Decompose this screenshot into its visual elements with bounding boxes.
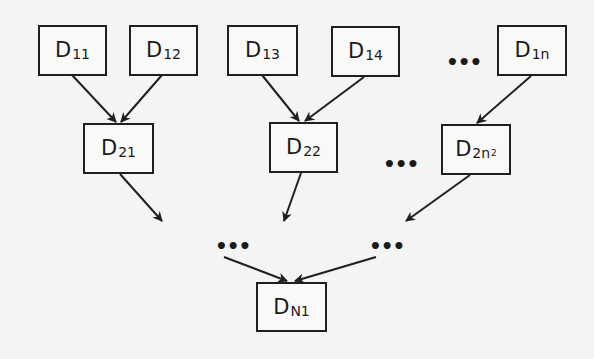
node-dn1: DN1 [256,282,327,332]
edge-d14-d22 [305,77,364,121]
node-label: D [146,40,162,61]
edge-d21-ellipsis [120,174,162,221]
edge-ellipsis-left-dn1 [224,257,287,281]
edge-d2n2-ellipsis [406,175,470,221]
node-label: D [245,40,261,61]
node-label: D [101,138,117,159]
node-label: D [455,139,471,160]
node-subscript: 12 [163,47,181,61]
node-label: D [286,137,302,158]
node-d2n2: D2n2 [441,124,511,175]
node-d14: D14 [331,26,400,77]
edge-d13-d22 [262,75,299,121]
node-label: D [515,40,531,61]
node-label: D [55,40,71,61]
edge-d1n-d2n2 [477,76,531,123]
ellipsis-level2: ••• [383,154,418,174]
edge-ellipsis-right-dn1 [295,257,376,281]
node-d1n: D1n [497,25,567,76]
edge-d12-d21 [121,75,162,122]
node-d22: D22 [269,122,338,173]
node-subscript: 14 [365,48,383,62]
tree-diagram: D11 D12 D13 D14 ••• D1n D21 D22 ••• D2n2… [0,0,594,359]
node-d13: D13 [227,25,298,76]
ellipsis-level3-right: ••• [369,236,404,256]
node-subscript: 2n [472,146,490,160]
edge-d11-d21 [72,75,116,122]
node-subscript-2: 2 [491,149,497,158]
node-d21: D21 [83,123,154,174]
edge-d22-ellipsis [284,173,301,221]
node-subscript: 22 [303,144,321,158]
node-label: D [273,297,289,318]
ellipsis-level1: ••• [446,52,481,72]
node-subscript: 13 [262,47,280,61]
ellipsis-level3-left: ••• [215,236,250,256]
node-subscript: N1 [290,304,309,318]
node-subscript: 1n [532,47,550,61]
node-label: D [348,41,364,62]
node-subscript: 21 [118,145,136,159]
node-d11: D11 [38,25,107,76]
node-subscript: 11 [72,47,90,61]
node-d12: D12 [129,25,198,76]
